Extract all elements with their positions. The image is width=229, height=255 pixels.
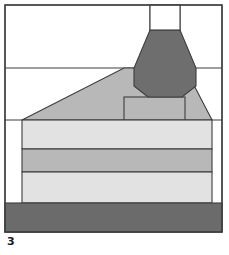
top-notch-box [150,5,180,30]
layer-band-1-light [22,120,212,149]
base-slab-dark [5,203,222,232]
layer-band-2-medium [22,149,212,172]
figure-number-label: 3 [7,235,15,248]
figure-diagram: 3 [0,0,229,255]
layer-band-3-light [22,172,212,203]
cross-section-schematic [0,0,229,255]
chimney-box [124,97,185,120]
